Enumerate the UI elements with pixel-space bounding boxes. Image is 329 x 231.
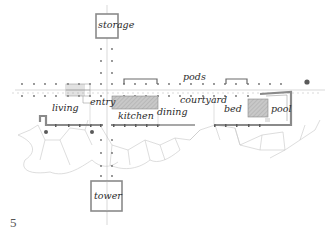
site-plan: storage pods living entry kitchen dining… [0,0,329,231]
room-label-tower: tower [94,191,122,201]
stair [66,84,90,103]
bed-core [248,99,268,117]
room-label-living: living [52,103,79,113]
room-label-dining: dining [157,107,187,117]
kitchen-core [112,96,158,109]
room-label-kitchen: kitchen [118,111,154,121]
figure-number: 5 [10,216,17,229]
room-label-bed: bed [224,104,242,114]
room-label-pool: pool [271,104,292,114]
room-label-storage: storage [98,20,134,30]
room-label-courtyard: courtyard [180,95,227,105]
room-label-entry: entry [90,97,115,107]
room-label-pods: pods [183,72,206,82]
rock-terrain [18,120,320,174]
